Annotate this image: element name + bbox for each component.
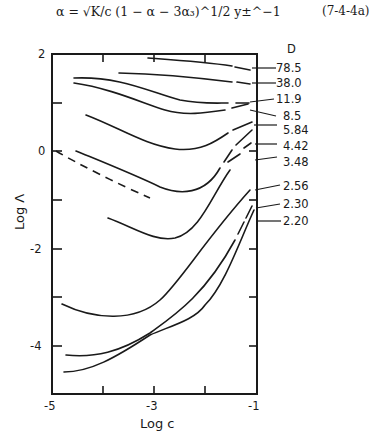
y-tick-label: 2 bbox=[38, 47, 45, 61]
legend-label: 78.5 bbox=[276, 61, 302, 75]
legend-label: 38.0 bbox=[276, 76, 302, 90]
curve-38.0 bbox=[119, 73, 232, 82]
curve-5.84 bbox=[86, 115, 228, 150]
legend-label: 3.48 bbox=[283, 155, 309, 169]
y-tick-label: 0 bbox=[38, 144, 45, 158]
legend-label: 5.84 bbox=[283, 123, 309, 137]
curve-3.48-right-dash bbox=[228, 143, 251, 162]
y-ticks bbox=[52, 103, 257, 346]
curve-2.20 bbox=[64, 210, 254, 372]
plot-frame bbox=[52, 54, 257, 394]
curve-8.5 bbox=[74, 83, 225, 113]
curve-2.20-upper bbox=[66, 240, 235, 356]
x-tick-label: -1 bbox=[248, 399, 259, 413]
conductance-chart: 2 0 -2 -4 -5 -3 -1 Log c Log Λ bbox=[0, 0, 376, 438]
curve-3.48 bbox=[56, 151, 150, 198]
legend-label: 2.56 bbox=[283, 179, 309, 193]
y-tick-label: -4 bbox=[30, 339, 41, 353]
curve-38.0-dash bbox=[237, 82, 250, 84]
legend: D 78.5 38.0 11.9 8.5 5.84 4.42 3.48 2.56… bbox=[250, 42, 309, 228]
curve-78.5-dash bbox=[235, 67, 250, 70]
legend-label: 8.5 bbox=[283, 109, 301, 123]
curve-8.5-dash bbox=[232, 104, 248, 108]
curve-2.30 bbox=[62, 190, 250, 316]
x-axis-label: Log c bbox=[140, 416, 175, 431]
legend-label: 11.9 bbox=[276, 92, 302, 106]
curves bbox=[56, 58, 254, 372]
y-tick-label: -2 bbox=[30, 242, 41, 256]
legend-label: 4.42 bbox=[283, 139, 309, 153]
y-axis-label: Log Λ bbox=[12, 194, 27, 230]
legend-title: D bbox=[287, 42, 296, 56]
x-ticks bbox=[103, 54, 205, 394]
curve-78.5 bbox=[148, 58, 232, 66]
x-tick-label: -3 bbox=[146, 399, 157, 413]
curve-11.9 bbox=[74, 78, 228, 103]
x-tick-label: -5 bbox=[44, 399, 55, 413]
curve-5.84-dash bbox=[233, 122, 252, 130]
legend-label: 2.20 bbox=[283, 214, 309, 228]
legend-label: 2.30 bbox=[283, 197, 309, 211]
curve-4.42 bbox=[76, 151, 220, 192]
